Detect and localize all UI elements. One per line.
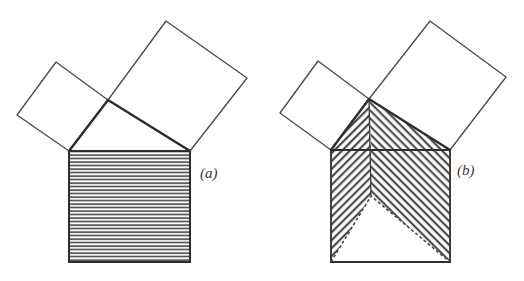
square-on-long-leg-a [108,21,247,151]
square-on-short-leg-a [17,62,108,151]
panel-b-label: (b) [457,162,475,179]
panel-a: (a) [17,21,247,262]
panel-a-label: (a) [200,165,218,182]
pythagorean-proof-figure: (a) (b [0,0,524,281]
square-on-hypotenuse-a [69,151,190,262]
panel-b: (b) [280,21,506,262]
